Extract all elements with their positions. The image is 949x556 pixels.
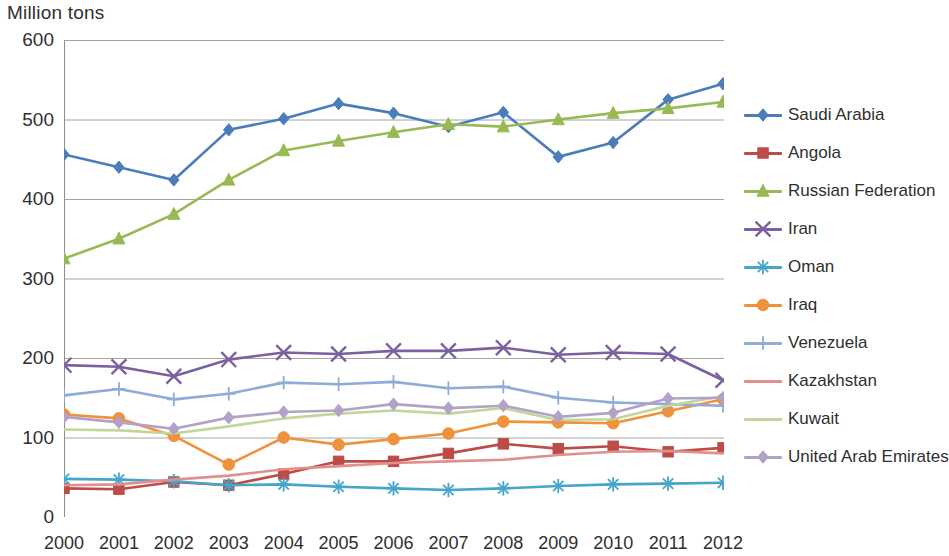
data-point-marker: [388, 107, 398, 119]
x-axis-tick-label: 2003: [209, 533, 249, 554]
x-axis-tick-label: 2010: [593, 533, 633, 554]
chart-legend: Saudi ArabiaAngolaRussian FederationIran…: [744, 96, 949, 476]
data-point-marker: [756, 260, 770, 274]
x-axis-tick-label: 2007: [428, 533, 468, 554]
legend-marker-icon: [752, 332, 774, 354]
data-point-marker: [441, 483, 455, 497]
legend-item-kuwait[interactable]: Kuwait: [744, 400, 949, 438]
y-axis-tick-label: 400: [22, 188, 54, 210]
legend-swatch-icon: [744, 108, 782, 122]
legend-swatch-icon: [744, 222, 782, 236]
legend-swatch-icon: [744, 374, 782, 388]
y-axis-tick-label: 500: [22, 109, 54, 131]
legend-marker-icon: [752, 180, 774, 202]
data-point-marker: [756, 336, 770, 350]
data-point-marker: [608, 441, 618, 451]
data-point-marker: [333, 439, 345, 451]
data-point-marker: [443, 448, 453, 458]
legend-item-angola[interactable]: Angola: [744, 134, 949, 172]
x-axis-tick-label: 2012: [703, 533, 743, 554]
data-point-marker: [717, 95, 724, 107]
data-point-marker: [333, 97, 343, 109]
legend-swatch-icon: [744, 298, 782, 312]
data-point-marker: [114, 161, 124, 173]
legend-swatch-icon: [744, 146, 782, 160]
legend-swatch-icon: [744, 412, 782, 426]
legend-swatch-icon: [744, 260, 782, 274]
legend-item-label: Oman: [788, 257, 834, 277]
legend-marker-icon: [752, 256, 774, 278]
data-point-marker: [222, 478, 236, 492]
data-point-marker: [224, 411, 234, 423]
legend-marker-icon: [752, 142, 774, 164]
data-point-marker: [758, 451, 768, 463]
data-point-marker: [553, 443, 563, 453]
data-point-marker: [498, 439, 508, 449]
data-point-marker: [278, 432, 290, 444]
legend-swatch-icon: [744, 450, 782, 464]
data-point-marker: [112, 382, 126, 396]
y-axis-tick-label: 300: [22, 268, 54, 290]
legend-item-label: Russian Federation: [788, 181, 935, 201]
data-point-marker: [443, 428, 455, 440]
data-point-marker: [388, 433, 400, 445]
data-point-marker: [276, 477, 290, 491]
y-axis-tick-label: 100: [22, 427, 54, 449]
y-axis-title: Million tons: [7, 2, 104, 24]
data-point-marker: [388, 456, 398, 466]
legend-item-label: Angola: [788, 143, 841, 163]
x-axis-tick-label: 2001: [99, 533, 139, 554]
data-point-marker: [758, 109, 768, 121]
data-point-marker: [278, 406, 288, 418]
data-point-marker: [222, 387, 236, 401]
data-point-marker: [757, 184, 769, 196]
y-axis-tick-label: 200: [22, 347, 54, 369]
legend-item-kazakhstan[interactable]: Kazakhstan: [744, 362, 949, 400]
data-point-marker: [388, 398, 398, 410]
x-axis-tick-label: 2006: [373, 533, 413, 554]
data-point-marker: [718, 78, 724, 90]
data-point-marker: [331, 480, 345, 494]
data-point-marker: [757, 299, 769, 311]
legend-item-label: Iran: [788, 219, 817, 239]
legend-item-russian-federation[interactable]: Russian Federation: [744, 172, 949, 210]
data-point-marker: [497, 380, 511, 394]
legend-item-united-arab-emirates[interactable]: United Arab Emirates: [744, 438, 949, 476]
data-point-marker: [606, 477, 620, 491]
legend-item-oman[interactable]: Oman: [744, 248, 949, 286]
data-point-marker: [442, 381, 456, 395]
y-axis-tick-label: 600: [22, 29, 54, 51]
data-point-marker: [551, 479, 565, 493]
line-chart: Million tons 0100200300400500600 2000200…: [0, 0, 949, 556]
legend-item-saudi-arabia[interactable]: Saudi Arabia: [744, 96, 949, 134]
data-point-marker: [386, 481, 400, 495]
x-axis-tick-label: 2011: [649, 533, 688, 554]
data-point-marker: [716, 476, 724, 490]
x-axis-tick-label: 2000: [44, 533, 84, 554]
y-axis-tick-labels: 0100200300400500600: [0, 40, 54, 517]
legend-item-iran[interactable]: Iran: [744, 210, 949, 248]
x-axis-tick-label: 2008: [483, 533, 523, 554]
legend-marker-icon: [752, 446, 774, 468]
data-point-marker: [756, 222, 771, 237]
legend-swatch-icon: [744, 336, 782, 350]
data-point-marker: [332, 377, 346, 391]
legend-item-label: Venezuela: [788, 333, 867, 353]
data-point-marker: [387, 375, 401, 389]
legend-item-label: United Arab Emirates: [788, 447, 949, 467]
data-point-marker: [718, 443, 724, 453]
legend-item-iraq[interactable]: Iraq: [744, 286, 949, 324]
data-point-marker: [498, 416, 510, 428]
legend-item-label: Saudi Arabia: [788, 105, 884, 125]
data-point-marker: [758, 148, 768, 158]
series-canvas: [64, 40, 724, 517]
legend-swatch-icon: [744, 184, 782, 198]
data-point-marker: [277, 376, 291, 390]
data-point-marker: [168, 207, 180, 219]
legend-item-venezuela[interactable]: Venezuela: [744, 324, 949, 362]
legend-item-label: Iraq: [788, 295, 817, 315]
x-axis-tick-label: 2002: [154, 533, 194, 554]
data-point-marker: [64, 148, 69, 160]
x-axis-tick-label: 2005: [319, 533, 359, 554]
legend-item-label: Kazakhstan: [788, 371, 877, 391]
